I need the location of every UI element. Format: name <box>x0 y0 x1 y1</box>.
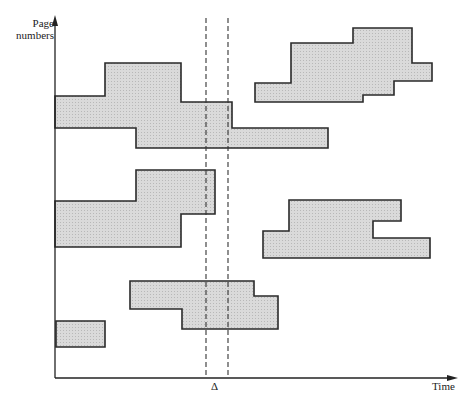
locality-3-region <box>55 170 215 247</box>
locality-4-region <box>263 200 430 258</box>
page-reference-diagram <box>0 0 469 406</box>
y-axis-label-line1: Page <box>14 17 54 29</box>
y-axis-label: Page numbers <box>14 17 54 41</box>
locality-2-region <box>255 28 432 102</box>
x-axis-label: Time <box>432 380 455 392</box>
locality-6-region <box>56 321 105 347</box>
y-axis-label-line2: numbers <box>14 29 54 41</box>
locality-1-region <box>55 63 328 148</box>
locality-5-region <box>130 281 278 329</box>
delta-label: Δ <box>211 380 218 392</box>
locality-regions <box>55 28 432 347</box>
